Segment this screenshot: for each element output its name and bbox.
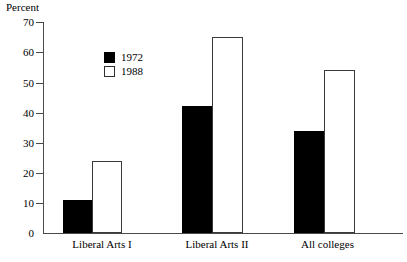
bar-liberal-arts-i-1988	[92, 161, 122, 233]
bar-liberal-arts-ii-1988	[212, 37, 243, 233]
y-tick-label-70: 70	[4, 17, 34, 28]
bar-liberal-arts-i-1972	[63, 200, 92, 233]
x-axis-line	[43, 233, 403, 234]
x-axis-label-liberal-arts-i: Liberal Arts I	[42, 238, 162, 251]
bar-all-colleges-1988	[324, 70, 355, 233]
y-tick-label-0: 0	[4, 228, 34, 239]
x-axis-label-all-colleges: All colleges	[265, 238, 390, 251]
y-tick-label-20: 20	[4, 168, 34, 179]
bar-liberal-arts-ii-1972	[182, 106, 212, 233]
y-tick-label-60: 60	[4, 47, 34, 58]
bar-all-colleges-1972	[294, 131, 324, 233]
y-tick-label-30: 30	[4, 138, 34, 149]
y-axis-title: Percent	[6, 1, 39, 13]
y-tick-label-50: 50	[4, 78, 34, 89]
y-tick-label-40: 40	[4, 108, 34, 119]
plot-area	[43, 22, 403, 233]
y-tick-label-10: 10	[4, 198, 34, 209]
bar-chart: Percent 70 60 50 40 30 20 10 0 1972 1988	[0, 0, 407, 262]
x-axis-label-liberal-arts-ii: Liberal Arts II	[152, 238, 282, 251]
